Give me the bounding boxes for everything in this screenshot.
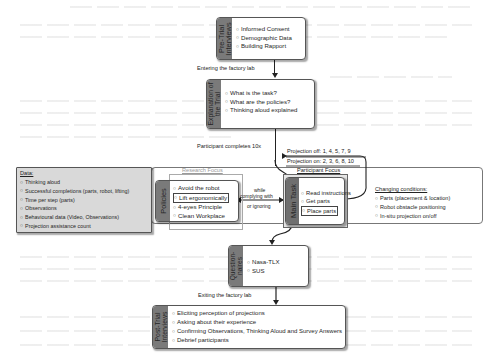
main-task-item: Get parts <box>301 197 351 205</box>
changing-conditions-title: Changing conditions: <box>375 186 427 192</box>
participant-focus-label: Participant Focus <box>297 167 340 173</box>
policies-item: Avoid the robot <box>173 184 229 193</box>
post-trial-item: Confirming Observations, Thinking Aloud … <box>172 327 342 336</box>
questionnaires-label: Question-naires <box>229 247 243 285</box>
relation-label-ignoring: or ignoring <box>247 203 271 209</box>
transition-exit-label: Exiting the factory lab <box>198 292 251 298</box>
policies-item: Clean Workplace <box>173 212 229 221</box>
main-task-label: Main Task <box>289 184 296 218</box>
policies-label: Policies <box>160 188 167 213</box>
changing-condition-item: Parts (placement & location) <box>375 194 450 203</box>
main-task-item: Read instructions <box>301 189 351 197</box>
main-task-items: Read instructions Get parts Place parts <box>301 189 351 216</box>
policies-items: Avoid the robot Lift ergonomically 4-eye… <box>173 184 229 220</box>
relation-label-complying: complying with <box>240 193 273 199</box>
post-trial-box: Post-Trial Interviews Eliciting percepti… <box>152 305 346 349</box>
questionnaires-strip: Question-naires <box>229 246 243 286</box>
changing-conditions-items: Parts (placement & location) Robot obsta… <box>375 194 450 220</box>
questionnaires-box: Question-naires Nasa-TLX SUS <box>228 245 309 287</box>
main-task-strip: Main Task <box>286 178 299 224</box>
changing-condition-item: Robot obstacle positioning <box>375 203 450 212</box>
policies-item: 4-eyes Principle <box>173 203 229 212</box>
post-trial-item: Asking about their experience <box>172 318 342 327</box>
policies-strip: Policies <box>156 181 170 221</box>
research-focus-label: Research Focus <box>182 167 223 173</box>
policies-item: Lift ergonomically <box>173 193 229 204</box>
post-trial-items: Eliciting perception of projections Aski… <box>172 309 342 345</box>
questionnaires-item: SUS <box>247 267 279 276</box>
changing-condition-item: In-situ projection on/off <box>375 212 450 221</box>
post-trial-item: Eliciting perception of projections <box>172 309 342 318</box>
main-task-box: Main Task Read instructions Get parts Pl… <box>285 177 345 225</box>
questionnaires-item: Nasa-TLX <box>247 258 279 267</box>
questionnaires-items: Nasa-TLX SUS <box>247 258 279 275</box>
post-trial-label: Post-Trial Interviews <box>154 308 168 346</box>
post-trial-item: Debrief participants <box>172 336 342 345</box>
main-task-item: Place parts <box>301 206 338 216</box>
policies-box: Policies Avoid the robot Lift ergonomica… <box>155 180 239 222</box>
post-trial-strip: Post-Trial Interviews <box>153 306 168 348</box>
